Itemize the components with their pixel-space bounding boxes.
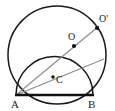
point-o-prime-dot	[95, 26, 99, 30]
point-o-dot	[72, 44, 76, 48]
label-o: O	[68, 31, 75, 42]
label-o-prime: O'	[99, 13, 108, 24]
geometry-canvas: A B C O O'	[0, 0, 115, 111]
label-b: B	[88, 98, 95, 110]
geometry-figure: A B C O O'	[0, 0, 115, 111]
label-a: A	[11, 98, 19, 110]
point-c-dot	[51, 75, 54, 78]
label-c: C	[56, 74, 63, 85]
